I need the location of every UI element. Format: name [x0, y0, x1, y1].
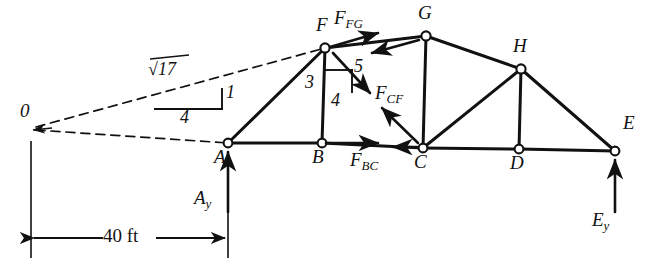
- slope-run-label-4: 4: [180, 108, 189, 126]
- slope-triangle-345: [325, 70, 352, 92]
- member-FB: [322, 48, 325, 143]
- force-label-FBC: FBC: [350, 150, 378, 172]
- node-label-E: E: [623, 113, 635, 132]
- member-HE: [521, 69, 615, 151]
- reaction-label-Ay-sub: y: [206, 197, 212, 210]
- slope-hyp-label-5: 5: [354, 57, 363, 75]
- member-DE: [519, 149, 615, 151]
- force-arrow-FCF-at-C: [382, 108, 418, 143]
- node-label-F: F: [316, 15, 328, 34]
- reaction-label-Ay-main: A: [194, 187, 206, 208]
- force-label-FCF-sub: CF: [387, 92, 404, 105]
- force-label-FBC-main: F: [350, 149, 362, 170]
- truss-members: [228, 36, 615, 151]
- node-label-A: A: [214, 147, 226, 166]
- reaction-label-Ey: Ey: [592, 210, 609, 232]
- member-AF: [228, 48, 325, 143]
- member-HD: [519, 69, 521, 149]
- slope-rise-label-3: 3: [305, 73, 314, 91]
- slope-hyp-label-sqrt17: √17: [148, 60, 176, 78]
- member-GC: [423, 36, 426, 148]
- force-label-FFG-main: F: [334, 7, 346, 28]
- force-label-FFG: FFG: [334, 8, 363, 30]
- force-label-FCF: FCF: [375, 83, 403, 105]
- truss-joints: [224, 31, 620, 155]
- origin-arrowhead: [33, 128, 52, 130]
- member-GH: [426, 36, 521, 69]
- slope-triangle-sqrt17: [155, 89, 222, 109]
- truss-diagram: 0 A B C D E F G H FFG FCF FBC Ay Ey √17 …: [0, 0, 661, 270]
- node-label-D: D: [510, 153, 524, 172]
- member-CH: [423, 69, 521, 148]
- member-CD: [423, 148, 519, 149]
- joint-F: [320, 43, 329, 52]
- node-label-G: G: [418, 3, 432, 22]
- line-of-action-rays: [36, 48, 325, 143]
- force-label-FCF-main: F: [375, 82, 387, 103]
- force-arrows: [228, 33, 615, 212]
- ray-to-a: [36, 130, 228, 143]
- joint-E: [611, 147, 620, 156]
- joint-G: [421, 31, 430, 40]
- reaction-label-Ey-main: E: [592, 209, 604, 230]
- reaction-label-Ay: Ay: [194, 188, 211, 210]
- origin-label: 0: [20, 101, 30, 120]
- reaction-label-Ey-sub: y: [604, 219, 610, 232]
- node-label-H: H: [513, 36, 527, 55]
- node-label-C: C: [414, 152, 427, 171]
- slope-run-label-4b: 4: [331, 91, 340, 109]
- force-label-FBC-sub: BC: [362, 159, 379, 172]
- slope-rise-label-1: 1: [226, 83, 235, 101]
- force-label-FFG-sub: FG: [346, 17, 363, 30]
- truss-geometry: [0, 0, 661, 270]
- dimension-label: 40 ft: [103, 226, 138, 245]
- node-label-B: B: [312, 147, 324, 166]
- joint-H: [516, 64, 525, 73]
